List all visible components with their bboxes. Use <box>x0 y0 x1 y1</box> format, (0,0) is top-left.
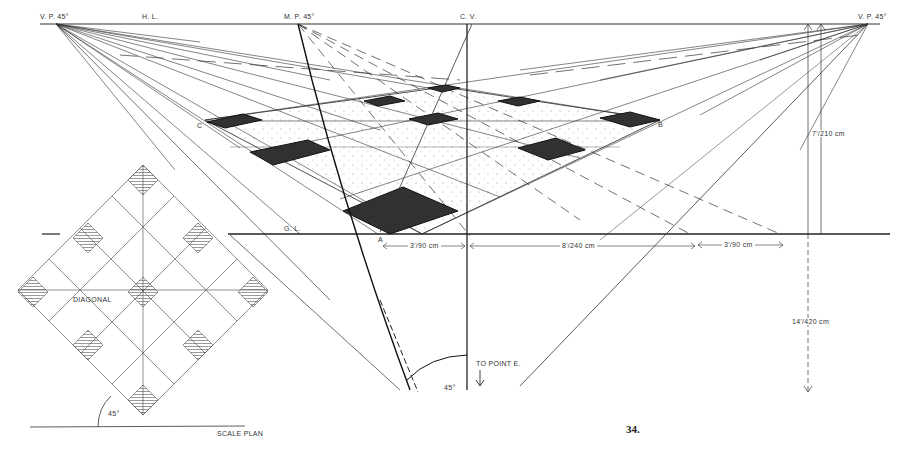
page-number: 34. <box>626 423 640 435</box>
corner-b-label: B <box>658 121 663 128</box>
dimension-1-label: 3'/90 cm <box>408 242 441 249</box>
horizon-line-label: H. L. <box>142 13 158 20</box>
angle-45-label: 45° <box>444 384 456 391</box>
plan-angle-label: 45° <box>108 410 120 417</box>
vp-left-label: V. P. 45° <box>40 13 69 20</box>
ground-line-label: G. L. <box>284 225 301 232</box>
vp-right-label: V. P. 45° <box>858 13 887 20</box>
measuring-point-label: M. P. 45° <box>284 13 315 20</box>
distance-dimension-label: 14'/420 cm <box>792 318 829 325</box>
diagonal-label: DIAGONAL <box>73 296 112 303</box>
perspective-drawing <box>0 0 920 455</box>
to-point-e-label: TO POINT E. <box>476 360 521 367</box>
dimension-2-label: 8'/240 cm <box>560 242 597 249</box>
corner-a-label: A <box>378 236 383 243</box>
corner-c-label: C <box>197 122 202 129</box>
dimension-3-label: 3'/90 cm <box>722 241 755 248</box>
height-dimension-label: 7'/210 cm <box>812 130 845 137</box>
center-of-vision-label: C. V. <box>460 13 476 20</box>
scale-plan-label: SCALE PLAN <box>217 430 263 437</box>
